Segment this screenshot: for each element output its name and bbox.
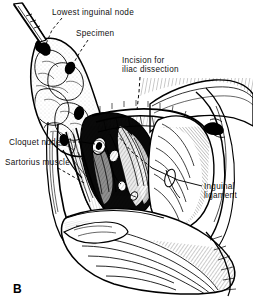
- label-incision-line1: Incision for: [122, 56, 165, 65]
- medical-illustration: [0, 0, 253, 306]
- label-lowest-inguinal-node: Lowest inguinal node: [52, 8, 134, 17]
- label-incision-line2: iliac dissection: [122, 65, 179, 74]
- label-cloquet-node: Cloquet node: [9, 138, 61, 147]
- label-specimen: Specimen: [76, 29, 114, 38]
- label-inguinal-line1: Inguinal: [204, 182, 235, 191]
- label-sartorius-muscle: Sartorius muscle: [5, 158, 70, 167]
- label-inguinal-line2: ligament: [204, 191, 237, 200]
- figure-letter-label: B: [13, 283, 22, 295]
- figure-panel: Lowest inguinal node Specimen Incision f…: [0, 0, 253, 306]
- label-inguinal-ligament: Inguinalligament: [204, 182, 237, 201]
- label-incision-for-iliac-dissection: Incision foriliac dissection: [122, 56, 179, 75]
